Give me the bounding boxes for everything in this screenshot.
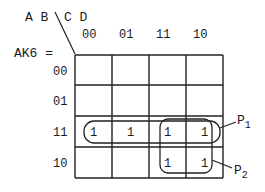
row-header: 00 [53,65,67,79]
group-p1-label: P1 [237,113,251,131]
col-header: 01 [119,28,133,42]
row-header: 11 [53,126,67,140]
cell-value: 1 [90,126,97,140]
row-header: 10 [53,157,67,171]
function-name: AK6 = [14,46,53,61]
col-header: 00 [82,28,96,42]
row-variables-label: A B [25,10,49,25]
cell-value: 1 [201,126,208,140]
group-p1-loop [84,121,220,143]
cell-value: 1 [164,157,171,171]
col-header: 10 [193,28,207,42]
karnaugh-map: A B C D AK6 = 00 01 11 10 00 01 11 10 1 … [0,0,265,192]
group-p2-leader [212,160,232,168]
cell-value: 1 [201,157,208,171]
col-header: 11 [156,28,170,42]
cell-value: 1 [127,126,134,140]
column-variables-label: C D [64,10,88,25]
group-p2-label: P2 [234,163,248,181]
row-header: 01 [53,95,67,109]
cell-value: 1 [164,126,171,140]
